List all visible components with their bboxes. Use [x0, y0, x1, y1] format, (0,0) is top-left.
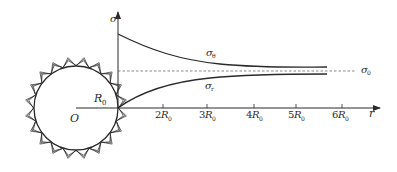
sigma-theta-label: σ θ [206, 47, 216, 59]
tick-label-2R0: 2 R 0 [155, 109, 172, 122]
tick-label-5R0: 5 R 0 [288, 109, 305, 122]
svg-text:0: 0 [259, 115, 263, 122]
svg-text:θ: θ [212, 52, 216, 59]
svg-text:0: 0 [212, 115, 216, 122]
svg-text:R: R [93, 92, 102, 105]
stress-diagram: σ r O R 0 σ θ σ r σ 0 2 R 0 3 R 0 4 R 0 … [0, 0, 397, 172]
svg-text:0: 0 [168, 115, 172, 122]
svg-text:0: 0 [102, 99, 106, 107]
tick-label-6R0: 6 R 0 [332, 109, 349, 122]
svg-text:0: 0 [367, 69, 371, 76]
svg-text:0: 0 [345, 115, 349, 122]
tick-label-4R0: 4 R 0 [246, 109, 263, 122]
tick-label-3R0: 3 R 0 [199, 109, 216, 122]
sigma-r-label: σ r [205, 80, 214, 92]
svg-text:0: 0 [301, 115, 305, 122]
sigma-r-curve [118, 74, 327, 108]
x-ticks [163, 104, 342, 108]
sigma-theta-curve [118, 34, 327, 67]
y-axis-label: σ [110, 13, 118, 24]
svg-text:r: r [211, 85, 214, 92]
x-axis-label: r [369, 107, 375, 120]
sigma0-label: σ 0 [361, 64, 371, 76]
origin-label: O [70, 112, 79, 125]
